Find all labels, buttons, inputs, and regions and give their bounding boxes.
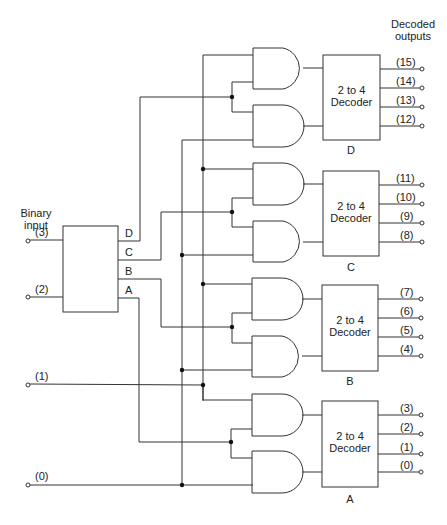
decoder-b-label: 2 to 4 Decoder	[322, 315, 378, 338]
and-gates	[252, 48, 323, 493]
input-title-line1: Binary	[14, 208, 58, 219]
input-label-3: (3)	[35, 227, 48, 238]
decoder-label-line2: Decoder	[323, 213, 379, 224]
decoder-c-label: 2 to 4 Decoder	[323, 201, 379, 224]
outputs-title-line1: Decoded	[380, 19, 446, 30]
output-10: (10)	[396, 192, 416, 203]
output-12: (12)	[396, 114, 416, 125]
output-6: (6)	[400, 306, 413, 317]
decoder-b-name: B	[339, 376, 361, 387]
output-14: (14)	[396, 76, 416, 87]
output-9: (9)	[400, 211, 413, 222]
input-label-2: (2)	[35, 284, 48, 295]
circuit-diagram	[0, 0, 447, 525]
output-0: (0)	[400, 460, 413, 471]
decoder-d-label: 2 to 4 Decoder	[323, 85, 380, 108]
input-label-1: (1)	[35, 371, 48, 382]
decoder-label-line1: 2 to 4	[323, 201, 379, 212]
block-output-c: C	[125, 247, 133, 258]
decoder-a-label: 2 to 4 Decoder	[322, 431, 378, 454]
output-8: (8)	[400, 230, 413, 241]
output-4: (4)	[400, 344, 413, 355]
output-11: (11)	[396, 173, 415, 184]
output-2: (2)	[400, 422, 413, 433]
decoder-label-line1: 2 to 4	[322, 315, 378, 326]
output-13: (13)	[396, 95, 416, 106]
block-output-d: D	[125, 228, 133, 239]
decoder-c-name: C	[340, 262, 362, 273]
output-5: (5)	[400, 325, 413, 336]
block-output-b: B	[125, 266, 132, 277]
block-output-a: A	[125, 285, 132, 296]
input-block	[63, 226, 118, 312]
decoder-label-line2: Decoder	[323, 97, 380, 108]
output-1: (1)	[400, 442, 413, 453]
output-15: (15)	[396, 57, 416, 68]
decoder-label-line1: 2 to 4	[322, 431, 378, 442]
decoder-a-name: A	[339, 494, 361, 505]
outputs-title: Decoded outputs	[380, 19, 446, 42]
input-label-0: (0)	[35, 471, 48, 482]
decoder-label-line1: 2 to 4	[323, 85, 380, 96]
decoder-label-line2: Decoder	[322, 327, 378, 338]
decoder-label-line2: Decoder	[322, 443, 378, 454]
decoder-d-name: D	[340, 145, 362, 156]
output-3: (3)	[400, 403, 413, 414]
output-7: (7)	[400, 287, 413, 298]
outputs-title-line2: outputs	[380, 31, 446, 42]
